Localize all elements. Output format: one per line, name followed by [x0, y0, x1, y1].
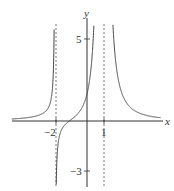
function-curve — [12, 25, 161, 184]
y-axis-label: y — [83, 7, 89, 19]
y-tick-label-neg3: −3 — [70, 165, 82, 177]
x-tick-label-neg2: −2 — [44, 126, 56, 138]
x-axis-label: x — [164, 115, 170, 127]
function-graph: x y −2 1 5 −3 — [0, 0, 174, 191]
plot-canvas: x y −2 1 5 −3 — [0, 0, 174, 191]
y-tick-label-5: 5 — [76, 33, 82, 45]
x-tick-label-1: 1 — [101, 126, 107, 138]
